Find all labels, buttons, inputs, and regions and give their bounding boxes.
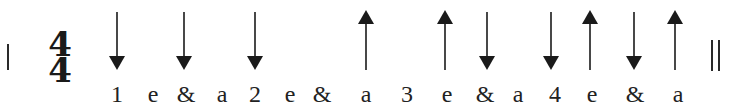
down-arrow-icon xyxy=(174,10,194,70)
end-double-barline-right xyxy=(718,40,720,71)
count-label: & xyxy=(470,80,500,108)
down-arrow-icon xyxy=(245,10,265,70)
down-arrow-icon xyxy=(541,10,561,70)
count-label: e xyxy=(138,80,168,108)
count-label: 2 xyxy=(240,80,270,108)
count-label: 3 xyxy=(392,80,422,108)
count-label: 4 xyxy=(540,80,570,108)
count-label: & xyxy=(620,80,650,108)
count-label: a xyxy=(207,80,237,108)
up-arrow-icon xyxy=(665,10,685,70)
count-label: e xyxy=(275,80,305,108)
count-label: a xyxy=(663,80,693,108)
down-arrow-icon xyxy=(477,10,497,70)
down-arrow-icon xyxy=(107,10,127,70)
time-signature-bottom: 4 xyxy=(40,56,80,84)
count-label: & xyxy=(171,80,201,108)
up-arrow-icon xyxy=(356,10,376,70)
up-arrow-icon xyxy=(580,10,600,70)
strumming-pattern: 4 4 1e&a2e&a3e&a4e&a xyxy=(0,0,743,109)
count-label: & xyxy=(307,80,337,108)
count-label: e xyxy=(432,80,462,108)
end-double-barline-left xyxy=(711,40,713,71)
count-label: a xyxy=(503,80,533,108)
start-barline xyxy=(7,44,9,70)
count-label: a xyxy=(351,80,381,108)
down-arrow-icon xyxy=(624,10,644,70)
up-arrow-icon xyxy=(435,10,455,70)
count-label: e xyxy=(577,80,607,108)
count-label: 1 xyxy=(102,80,132,108)
